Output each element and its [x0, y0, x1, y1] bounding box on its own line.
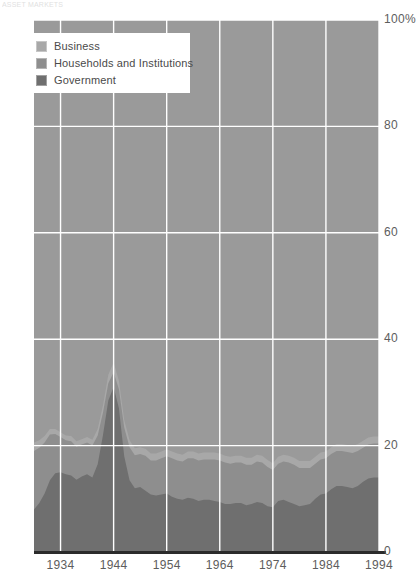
x-tick-label: 1984: [312, 558, 340, 572]
x-tick-label: 1994: [365, 558, 393, 572]
y-tick-label: 40: [384, 331, 398, 345]
chart-plot-area: [34, 20, 379, 552]
x-tick-label: 1974: [259, 558, 287, 572]
legend-label-business: Business: [54, 40, 100, 52]
y-tick-label: 0: [384, 544, 391, 558]
chart-page: ASSET MARKETS 020406080100% 193419441954…: [0, 0, 416, 576]
legend-item-business: Business: [36, 38, 190, 55]
legend-label-households: Households and Institutions: [54, 57, 193, 69]
y-tick-label: 80: [384, 118, 398, 132]
page-header-cutoff: ASSET MARKETS: [2, 0, 122, 9]
x-tick-label: 1934: [47, 558, 75, 572]
legend-swatch-government: [36, 75, 47, 86]
legend-item-households: Households and Institutions: [36, 55, 190, 72]
y-tick-label: 100%: [384, 12, 416, 26]
legend-item-government: Government: [36, 72, 190, 89]
x-tick-label: 1964: [206, 558, 234, 572]
y-tick-label: 60: [384, 225, 398, 239]
chart-legend: Business Households and Institutions Gov…: [26, 33, 190, 93]
x-tick-label: 1944: [100, 558, 128, 572]
x-tick-label: 1954: [153, 558, 181, 572]
legend-swatch-households: [36, 58, 47, 69]
legend-swatch-business: [36, 41, 47, 52]
stacked-area-chart: [34, 20, 379, 552]
y-tick-label: 20: [384, 438, 398, 452]
legend-label-government: Government: [54, 74, 116, 86]
axis-baseline: [34, 551, 386, 554]
